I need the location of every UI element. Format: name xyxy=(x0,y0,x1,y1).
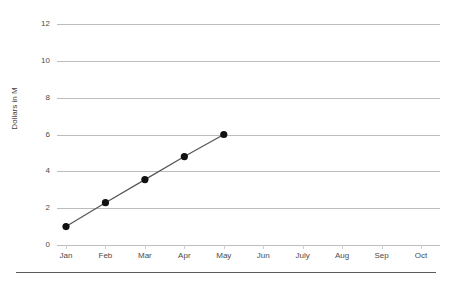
x-axis-tick-mark xyxy=(342,245,343,249)
x-axis-tick-mark xyxy=(421,245,422,249)
x-axis-tick-mark xyxy=(224,245,225,249)
x-axis-tick-label: Sep xyxy=(362,252,402,260)
x-axis-tick-mark xyxy=(105,245,106,249)
x-axis-tick-label: Jan xyxy=(46,252,86,260)
bottom-axis-rule xyxy=(16,272,436,273)
x-axis-tick-label: July xyxy=(283,252,323,260)
data-series-layer xyxy=(0,0,450,281)
data-point-marker xyxy=(141,176,148,183)
x-axis-tick-mark xyxy=(303,245,304,249)
data-point-marker xyxy=(181,153,188,160)
x-axis-tick-labels: JanFebMarAprMayJunJulyAugSepOct xyxy=(0,252,450,266)
x-axis-tick-mark xyxy=(145,245,146,249)
data-point-marker xyxy=(102,199,109,206)
x-axis-tick-label: Feb xyxy=(85,252,125,260)
x-axis-tick-mark xyxy=(263,245,264,249)
x-axis-tick-label: Jun xyxy=(243,252,283,260)
x-axis-tick-label: Aug xyxy=(322,252,362,260)
x-axis-tick-mark xyxy=(66,245,67,249)
x-axis-tick-mark xyxy=(382,245,383,249)
x-axis-tick-label: May xyxy=(204,252,244,260)
x-axis-tick-label: Oct xyxy=(401,252,441,260)
x-axis-tick-label: Apr xyxy=(164,252,204,260)
data-point-marker xyxy=(220,131,227,138)
line-chart: 024681012 Dollars in M JanFebMarAprMayJu… xyxy=(0,0,450,281)
data-point-marker xyxy=(62,223,69,230)
x-axis-tick-label: Mar xyxy=(125,252,165,260)
x-axis-tick-mark xyxy=(184,245,185,249)
